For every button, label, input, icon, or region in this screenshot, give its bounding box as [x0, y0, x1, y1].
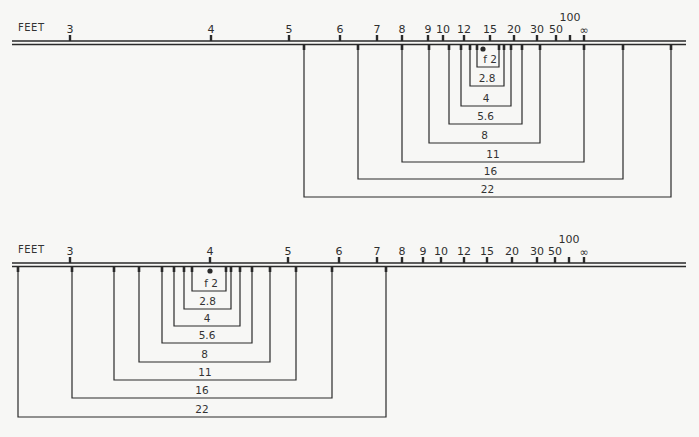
- aperture-label: 11: [486, 148, 499, 160]
- distance-label: 30: [530, 245, 544, 258]
- distance-label: 20: [507, 23, 521, 36]
- aperture-bracket: 2.8: [469, 45, 506, 86]
- distance-label: ∞: [579, 246, 588, 259]
- distance-label: 10: [434, 245, 448, 258]
- aperture-label: f 2: [204, 277, 218, 289]
- aperture-label: 11: [198, 366, 211, 378]
- distance-label: 5: [285, 245, 292, 258]
- distance-label: 7: [374, 23, 381, 36]
- focus-point-dot: [480, 46, 485, 51]
- aperture-label: 2.8: [199, 295, 216, 307]
- distance-label: 5: [286, 23, 293, 36]
- depth-of-field-diagram: FEET3456789101215203050100∞f 22.845.6811…: [0, 0, 699, 437]
- distance-label: 15: [483, 23, 497, 36]
- focus-point-dot: [207, 268, 212, 273]
- distance-tick: [569, 35, 571, 41]
- distance-label: 9: [425, 23, 432, 36]
- distance-label: 8: [399, 23, 406, 36]
- distance-label: 20: [505, 245, 519, 258]
- depth-of-field-scale-focused-4ft: FEET3456789101215203050100∞f 22.845.6811…: [12, 233, 686, 417]
- distance-label: 50: [548, 245, 562, 258]
- distance-label: 9: [420, 245, 427, 258]
- distance-label: 30: [530, 23, 544, 36]
- distance-label: 6: [337, 23, 344, 36]
- aperture-label: f 2: [483, 53, 497, 65]
- distance-tick: [568, 257, 570, 263]
- depth-of-field-scale-focused-15ft: FEET3456789101215203050100∞f 22.845.6811…: [12, 11, 686, 197]
- distance-label: 100: [559, 233, 580, 246]
- distance-label: 7: [374, 245, 381, 258]
- distance-label: 12: [457, 245, 471, 258]
- aperture-label: 16: [484, 165, 498, 177]
- aperture-label: 22: [481, 183, 494, 195]
- distance-label: 3: [67, 23, 74, 36]
- distance-label: 8: [399, 245, 406, 258]
- aperture-bracket: f 2: [476, 45, 501, 67]
- aperture-label: 4: [483, 92, 490, 104]
- aperture-label: 5.6: [199, 329, 216, 341]
- aperture-label: 4: [204, 312, 211, 324]
- aperture-label: 16: [195, 384, 209, 396]
- distance-label: ∞: [579, 24, 588, 37]
- aperture-label: 2.8: [479, 72, 496, 84]
- aperture-label: 8: [481, 129, 488, 141]
- distance-label: 4: [208, 23, 215, 36]
- distance-label: 15: [480, 245, 494, 258]
- distance-label: 10: [436, 23, 450, 36]
- unit-label: FEET: [18, 22, 45, 33]
- distance-label: 50: [549, 23, 563, 36]
- aperture-label: 8: [201, 348, 208, 360]
- distance-label: 4: [207, 245, 214, 258]
- unit-label: FEET: [18, 244, 45, 255]
- aperture-label: 22: [195, 403, 208, 415]
- distance-label: 100: [560, 11, 581, 24]
- distance-label: 3: [67, 245, 74, 258]
- distance-label: 12: [457, 23, 471, 36]
- aperture-label: 5.6: [477, 110, 494, 122]
- distance-label: 6: [336, 245, 343, 258]
